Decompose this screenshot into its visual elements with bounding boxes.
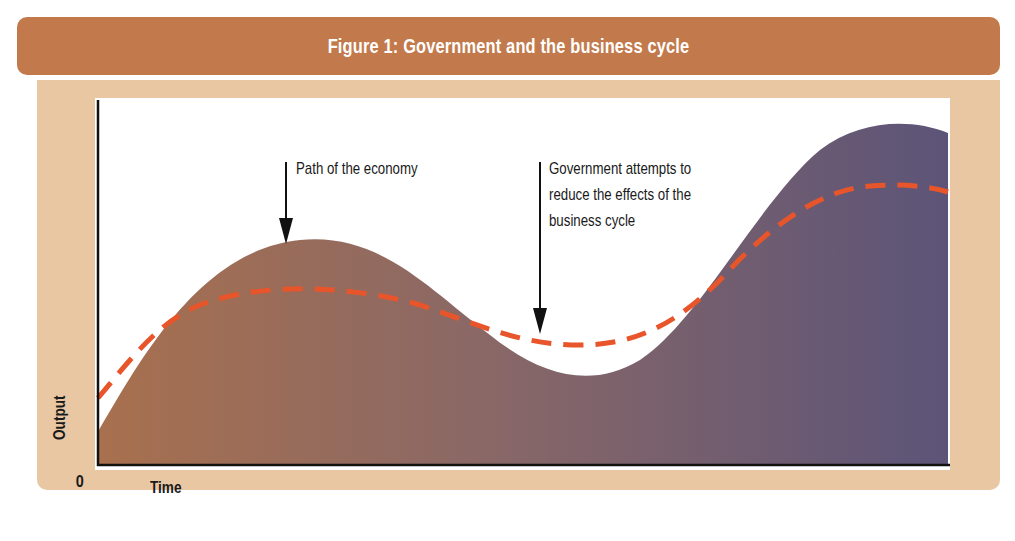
annotation-government-line-3: business cycle (549, 208, 635, 234)
y-axis-label: Output (50, 395, 70, 440)
annotation-path-of-economy: Path of the economy (296, 156, 418, 182)
x-axis-label: Time (150, 478, 182, 498)
origin-label: 0 (76, 472, 84, 492)
annotation-government-line-2: reduce the effects of the (549, 182, 691, 208)
chart-plot (0, 0, 1015, 541)
annotation-government-line-1: Government attempts to (549, 156, 691, 182)
